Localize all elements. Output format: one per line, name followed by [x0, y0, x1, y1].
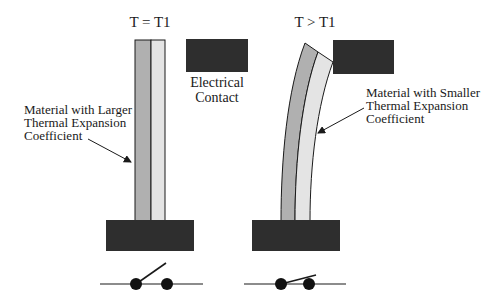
right-material-label-line3: Coefficient [366, 111, 425, 126]
bimetallic-strip-diagram: T = T1 Electrical Contact Material with … [0, 0, 493, 307]
left-title: T = T1 [129, 14, 170, 30]
switch-terminal-left [275, 278, 287, 290]
switch-terminal-left [130, 278, 142, 290]
left-pointer-arrow [88, 139, 131, 162]
left-material-label-line3: Coefficient [24, 128, 83, 143]
right-pointer-arrow [318, 108, 364, 133]
contact-label-line1: Electrical [190, 75, 244, 90]
contact-label-line2: Contact [195, 90, 239, 105]
switch-terminal-right [303, 278, 315, 290]
left-strip-smaller-material [151, 40, 165, 221]
open-switch-symbol [100, 263, 203, 290]
right-panel: T > T1 Material with Smaller Thermal Exp… [244, 14, 481, 290]
left-strip-larger-material [135, 40, 151, 221]
electrical-contact-touching [333, 40, 394, 74]
right-base-block [252, 220, 340, 251]
left-panel: T = T1 Electrical Contact Material with … [24, 14, 248, 290]
switch-terminal-right [161, 278, 173, 290]
right-title: T > T1 [294, 14, 335, 30]
closed-switch-symbol [244, 275, 346, 290]
left-base-block [106, 220, 194, 251]
electrical-contact [186, 39, 248, 72]
